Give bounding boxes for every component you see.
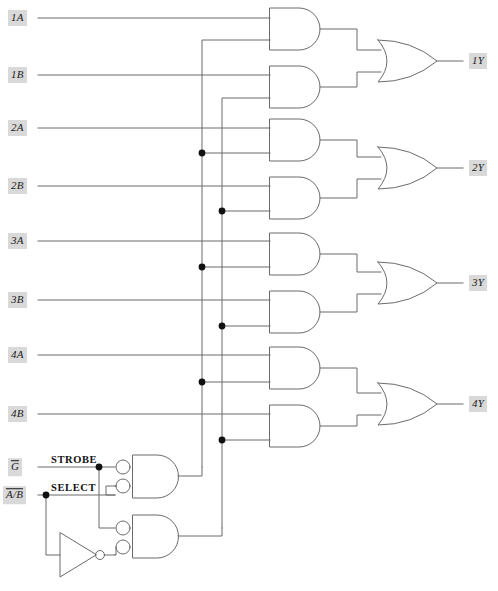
circuit-wiring-layer: [0, 0, 498, 591]
junction-dot-select: [43, 492, 50, 499]
gate-and-1b: [270, 66, 320, 108]
pin-label-4A: 4A: [8, 347, 27, 363]
pin-label-1Y: 1Y: [469, 53, 487, 69]
pin-label-G-bar-text: G: [11, 460, 19, 473]
junction-dots: [43, 150, 226, 499]
pin-label-1A: 1A: [8, 10, 27, 26]
nand-a-bubble-top-icon: [116, 460, 130, 474]
junction-dot-a3: [199, 264, 206, 271]
gate-or-2y: [378, 147, 437, 189]
nand-b-bubble-bottom-icon: [116, 540, 130, 554]
junction-dot-a4: [199, 379, 206, 386]
gate-and-2b: [270, 177, 320, 219]
bus-strobe-b: [222, 98, 270, 528]
wire-and3b-to-or3: [320, 294, 381, 312]
junction-dot-b4: [219, 437, 226, 444]
gate-and-4b: [270, 405, 320, 447]
gate-or-3y: [378, 262, 437, 304]
gate-and-3b: [270, 291, 320, 333]
gate-or-4y: [378, 383, 437, 425]
pin-label-3A: 3A: [8, 233, 27, 249]
gate-and-2a: [270, 119, 320, 161]
pin-label-3Y: 3Y: [469, 275, 487, 291]
junction-dot-b3: [219, 323, 226, 330]
wire-and1a-to-or1: [320, 29, 381, 50]
nand-a-bubble-bottom-icon: [116, 479, 130, 493]
function-label-strobe: STROBE: [51, 454, 97, 465]
nand-b-bubble-top-icon: [116, 521, 130, 535]
wire-and3a-to-or3: [320, 254, 381, 272]
gate-inverter-select: [60, 533, 96, 577]
wire-and2a-to-or2: [320, 140, 381, 157]
pin-label-G-bar: G: [8, 458, 22, 476]
wire-and2b-to-or2: [320, 179, 381, 198]
bus-strobe-a: [202, 40, 270, 467]
pin-label-1B: 1B: [8, 67, 27, 83]
pin-label-3B: 3B: [8, 292, 27, 308]
wire-select-fanout: [46, 495, 60, 555]
wire-strobe-fanout: [99, 467, 115, 528]
pin-label-4Y: 4Y: [469, 396, 487, 412]
gate-or-1y: [378, 40, 437, 82]
wire-nandb-to-bus-b: [178, 528, 222, 536]
gate-nand-b: [133, 515, 179, 558]
junction-dot-a2: [199, 150, 206, 157]
wire-and1b-to-or1: [320, 72, 381, 87]
gate-and-4a: [270, 347, 320, 389]
wire-and4a-to-or4: [320, 368, 381, 393]
pin-label-AB-bar: A/B: [3, 486, 26, 504]
gate-and-1a: [270, 8, 320, 50]
pin-label-4B: 4B: [8, 406, 27, 422]
wire-select-stub-a: [106, 486, 116, 495]
pin-label-2B: 2B: [8, 178, 27, 194]
gate-nand-a: [133, 455, 179, 498]
wire-and4b-to-or4: [320, 415, 381, 426]
junction-dot-strobe: [96, 464, 103, 471]
pin-label-2Y: 2Y: [469, 160, 487, 176]
pin-label-2A: 2A: [8, 120, 27, 136]
junction-dot-b2: [219, 208, 226, 215]
logic-diagram: 1A 1B 2A 2B 3A 3B 4A 4B G A/B STROBE SEL…: [0, 0, 498, 591]
function-label-select: SELECT: [51, 482, 96, 493]
pin-label-AB-bar-text: A/B: [6, 488, 23, 501]
gate-and-3a: [270, 233, 320, 275]
wire-inv-stub-b: [115, 547, 116, 555]
wire-nanda-to-bus-a: [178, 467, 202, 476]
